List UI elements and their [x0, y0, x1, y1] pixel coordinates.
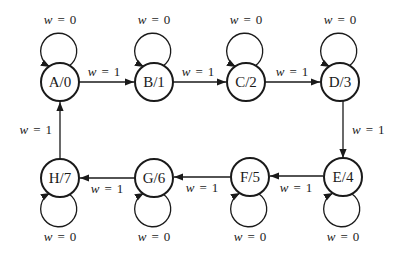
state-label-A: A/0	[49, 74, 72, 90]
state-label-B: B/1	[143, 74, 165, 90]
edge-label-B-C: w=1	[182, 64, 215, 79]
state-diagram: w=0 w=0 w=0 w=0 w=0 w=0 w=0 w=0 w=1 w=1 …	[0, 0, 401, 257]
state-node-B: B/1	[135, 63, 173, 101]
self-loop-D: w=0	[321, 12, 357, 67]
loop-label-E: w=0	[327, 229, 360, 244]
edge-B-C: w=1	[173, 64, 226, 82]
edge-F-G: w=1	[174, 177, 230, 195]
loop-label-A: w=0	[44, 12, 77, 27]
state-label-D: D/3	[329, 74, 352, 90]
self-loop-E: w=0	[324, 193, 360, 244]
edge-label-E-F: w=1	[280, 180, 313, 195]
edge-label-H-A: w=1	[19, 122, 52, 137]
state-label-F: F/5	[240, 169, 260, 185]
self-loop-B: w=0	[135, 12, 171, 67]
edge-label-G-H: w=1	[91, 181, 124, 196]
state-node-E: E/4	[324, 158, 362, 196]
state-label-G: G/6	[143, 170, 166, 186]
edge-label-F-G: w=1	[186, 180, 219, 195]
loop-label-C: w=0	[230, 12, 263, 27]
edge-E-F: w=1	[270, 176, 323, 195]
edge-label-C-D: w=1	[276, 64, 309, 79]
state-node-D: D/3	[321, 63, 359, 101]
edge-C-D: w=1	[265, 64, 320, 82]
state-label-E: E/4	[333, 169, 354, 185]
loop-label-G: w=0	[138, 229, 171, 244]
state-node-A: A/0	[41, 63, 79, 101]
self-loop-F: w=0	[231, 193, 267, 244]
state-label-C: C/2	[235, 74, 257, 90]
edge-G-H: w=1	[80, 178, 135, 196]
edge-D-E: w=1	[343, 101, 385, 158]
edge-A-B: w=1	[79, 64, 134, 82]
self-loop-C: w=0	[227, 12, 263, 67]
loop-label-B: w=0	[138, 12, 171, 27]
state-node-H: H/7	[41, 159, 79, 197]
edge-label-A-B: w=1	[88, 64, 121, 79]
edge-H-A: w=1	[19, 102, 60, 158]
state-node-F: F/5	[231, 158, 269, 196]
loop-label-F: w=0	[234, 229, 267, 244]
self-loop-A: w=0	[41, 12, 77, 67]
self-loop-H: w=0	[41, 193, 77, 244]
edge-label-D-E: w=1	[352, 122, 385, 137]
self-loop-G: w=0	[135, 193, 171, 244]
state-node-G: G/6	[135, 159, 173, 197]
loop-label-H: w=0	[44, 229, 77, 244]
state-node-C: C/2	[227, 63, 265, 101]
state-label-H: H/7	[49, 170, 72, 186]
loop-label-D: w=0	[324, 12, 357, 27]
